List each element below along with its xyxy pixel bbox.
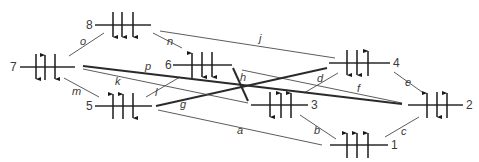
edge-line — [160, 31, 335, 58]
node-7: 7 — [10, 54, 75, 80]
edge-line — [69, 33, 104, 56]
edge-label: f — [357, 82, 361, 94]
edge-label: j — [257, 32, 262, 44]
edge-e: e — [394, 72, 422, 92]
node-label: 1 — [391, 138, 398, 152]
edge-label: e — [405, 76, 411, 88]
node-label: 3 — [311, 98, 318, 112]
edge-label: m — [72, 85, 81, 97]
edge-label: o — [80, 35, 86, 47]
edge-label: g — [180, 98, 187, 110]
edge-b: b — [300, 115, 336, 139]
node-label: 2 — [466, 98, 473, 112]
node-2: 2 — [408, 92, 473, 118]
edge-label: c — [401, 125, 407, 137]
node-8: 8 — [86, 12, 151, 37]
edge-label: p — [144, 60, 151, 72]
edge-label: b — [314, 124, 320, 136]
edge-c: c — [385, 117, 419, 137]
node-1: 1 — [330, 133, 398, 158]
edge-label: a — [237, 124, 243, 136]
edge-line — [64, 78, 99, 97]
node-4: 4 — [329, 50, 400, 76]
node-label: 8 — [86, 18, 93, 32]
edge-d: d — [304, 72, 338, 93]
edge-label: n — [167, 35, 173, 47]
node-5: 5 — [86, 93, 152, 119]
edge-n: n — [153, 33, 182, 48]
node-label: 4 — [393, 56, 400, 70]
edge-label: d — [317, 72, 324, 84]
edge-line — [146, 77, 180, 97]
edge-label: k — [115, 75, 121, 87]
edge-label: l — [155, 86, 158, 98]
node-label: 7 — [10, 60, 17, 74]
edges-layer: abcdefghjklmnop — [64, 31, 422, 145]
edge-j: j — [160, 31, 335, 58]
node-3: 3 — [251, 92, 318, 118]
node-label: 5 — [86, 99, 93, 113]
edge-m: m — [64, 78, 99, 97]
edge-a: a — [158, 110, 322, 145]
edge-o: o — [69, 33, 104, 56]
node-6: 6 — [165, 52, 232, 78]
node-label: 6 — [165, 58, 172, 72]
spin-network-diagram: abcdefghjklmnop 12345678 — [0, 0, 479, 162]
edge-label: h — [240, 71, 246, 83]
